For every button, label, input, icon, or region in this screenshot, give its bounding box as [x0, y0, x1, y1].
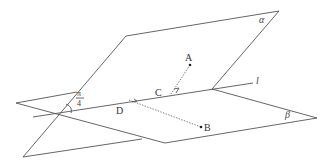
segment-AC — [171, 65, 190, 94]
label-alpha: α — [259, 14, 265, 25]
label-A: A — [185, 52, 193, 63]
segment-BD — [129, 100, 201, 127]
label-l: l — [256, 75, 259, 86]
point-A — [189, 64, 192, 67]
right-angle-mark-D — [132, 99, 137, 102]
line-l — [33, 83, 253, 117]
angle-numerator: π — [77, 89, 81, 98]
angle-denominator: 4 — [77, 99, 81, 108]
right-angle-mark-C — [174, 88, 179, 93]
plane-alpha — [23, 11, 279, 157]
plane-beta — [16, 89, 317, 143]
point-B — [200, 126, 203, 129]
label-beta: β — [284, 109, 290, 120]
dihedral-diagram: A B C D α β l π 4 — [0, 0, 330, 164]
label-B: B — [204, 122, 211, 133]
label-C: C — [155, 87, 162, 98]
label-D: D — [116, 105, 123, 116]
